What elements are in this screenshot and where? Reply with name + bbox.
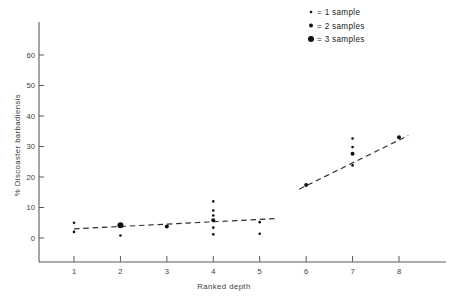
y-tick-label: 60 (27, 51, 35, 60)
legend-marker-1-sample (310, 11, 313, 14)
data-point (73, 231, 76, 234)
x-axis-ticks: 12345678 (72, 256, 401, 276)
y-tick-label: 50 (27, 81, 35, 90)
legend-label-3-sample: = 3 samples (317, 35, 365, 44)
data-point (351, 164, 354, 167)
data-point (212, 233, 215, 236)
x-tick-label: 8 (397, 267, 401, 276)
trend-line-shallow-segment (74, 218, 278, 228)
data-point (351, 146, 354, 149)
axes (39, 22, 446, 262)
y-tick-label: 0 (31, 234, 35, 243)
data-point (258, 232, 261, 235)
x-tick-label: 3 (165, 267, 169, 276)
x-tick-label: 2 (118, 267, 122, 276)
x-axis-title: Ranked depth (197, 282, 250, 291)
data-point (211, 218, 215, 222)
data-point (119, 234, 122, 237)
x-tick-label: 4 (211, 267, 215, 276)
y-axis-title: % Discoaster barbadiensis (13, 94, 22, 196)
legend-label-1-sample: = 1 sample (317, 8, 360, 17)
data-point (212, 214, 215, 217)
data-point (212, 200, 215, 203)
data-points (73, 135, 401, 237)
scatter-chart: 0102030405060 12345678 % Discoaster barb… (0, 0, 454, 301)
data-point (117, 222, 123, 228)
data-point (351, 137, 354, 140)
data-point (165, 224, 169, 228)
trend-line-deep-segment (299, 136, 408, 190)
x-tick-label: 6 (304, 267, 308, 276)
data-point (212, 209, 215, 212)
data-point (351, 152, 355, 156)
data-point (397, 135, 401, 139)
y-tick-label: 10 (27, 203, 35, 212)
legend-label-2-sample: = 2 samples (317, 22, 365, 31)
legend: = 1 sample= 2 samples= 3 samples (308, 8, 365, 44)
legend-marker-2-sample (309, 24, 313, 28)
y-tick-label: 40 (27, 112, 35, 121)
data-point (212, 226, 215, 229)
legend-marker-3-sample (308, 36, 314, 42)
data-point (258, 221, 261, 224)
y-tick-label: 30 (27, 142, 35, 151)
y-axis-ticks: 0102030405060 (27, 51, 44, 243)
y-tick-label: 20 (27, 173, 35, 182)
trend-lines (74, 136, 408, 229)
x-tick-label: 1 (72, 267, 76, 276)
data-point (304, 183, 308, 187)
figure-container: 0102030405060 12345678 % Discoaster barb… (0, 0, 454, 301)
data-point (73, 221, 76, 224)
x-tick-label: 5 (258, 267, 262, 276)
x-tick-label: 7 (350, 267, 354, 276)
